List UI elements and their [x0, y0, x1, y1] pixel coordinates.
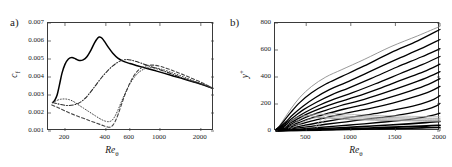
y-tick-label: 0.005 — [0, 54, 44, 62]
panel-a: a) 200400600100020000.0010.0020.0030.004… — [0, 0, 226, 167]
data-series-t8 — [276, 79, 440, 130]
x-tick-label: 1000 — [152, 133, 166, 141]
panel-b-y-axis-title: y+ — [238, 70, 250, 78]
x-tick-label: 1000 — [343, 133, 357, 141]
figure-root: a) 200400600100020000.0010.0020.0030.004… — [0, 0, 452, 167]
data-series-solid — [53, 37, 213, 103]
panel-a-x-axis-title: Reθ — [105, 145, 118, 158]
data-series-dotted — [53, 68, 213, 122]
axis-title-base: Re — [105, 145, 115, 155]
panel-b-plot-area — [274, 22, 439, 130]
x-tick-label: 400 — [100, 133, 111, 141]
y-tick-label: 0.004 — [0, 72, 44, 80]
panel-a-curves — [48, 23, 214, 131]
data-series-dashed — [52, 65, 213, 127]
axis-title-subscript: θ — [359, 150, 362, 158]
x-tick-label: 600 — [124, 133, 135, 141]
panel-a-plot-area — [47, 22, 213, 130]
panel-b-curves — [275, 23, 440, 131]
x-tick-label: 1500 — [387, 133, 401, 141]
axis-title-base: c — [9, 74, 19, 78]
y-tick-label: 0.003 — [0, 90, 44, 98]
y-tick-label: 200 — [226, 99, 271, 107]
axis-title-base: Re — [349, 145, 359, 155]
axis-title-subscript: f — [14, 71, 22, 73]
y-tick-label: 0 — [226, 126, 271, 134]
panel-b: b) 5001000150020000200400600800 Reθ y+ — [226, 0, 452, 167]
x-tick-label: 2000 — [432, 133, 446, 141]
axis-title-superscript: + — [238, 70, 246, 74]
axis-title-base: y — [240, 74, 250, 78]
x-tick-label: 200 — [59, 133, 70, 141]
y-tick-label: 800 — [226, 18, 271, 26]
y-tick-label: 600 — [226, 45, 271, 53]
panel-b-x-axis-title: Reθ — [349, 145, 362, 158]
y-tick-label: 0.001 — [0, 126, 44, 134]
data-series-dash-dot — [53, 60, 213, 106]
panel-a-y-axis-title: cf — [9, 71, 22, 78]
x-tick-label: 2000 — [193, 133, 207, 141]
y-tick-label: 0.006 — [0, 36, 44, 44]
axis-title-subscript: θ — [115, 150, 118, 158]
x-tick-label: 500 — [300, 133, 311, 141]
y-tick-label: 0.002 — [0, 108, 44, 116]
y-tick-label: 0.007 — [0, 18, 44, 26]
